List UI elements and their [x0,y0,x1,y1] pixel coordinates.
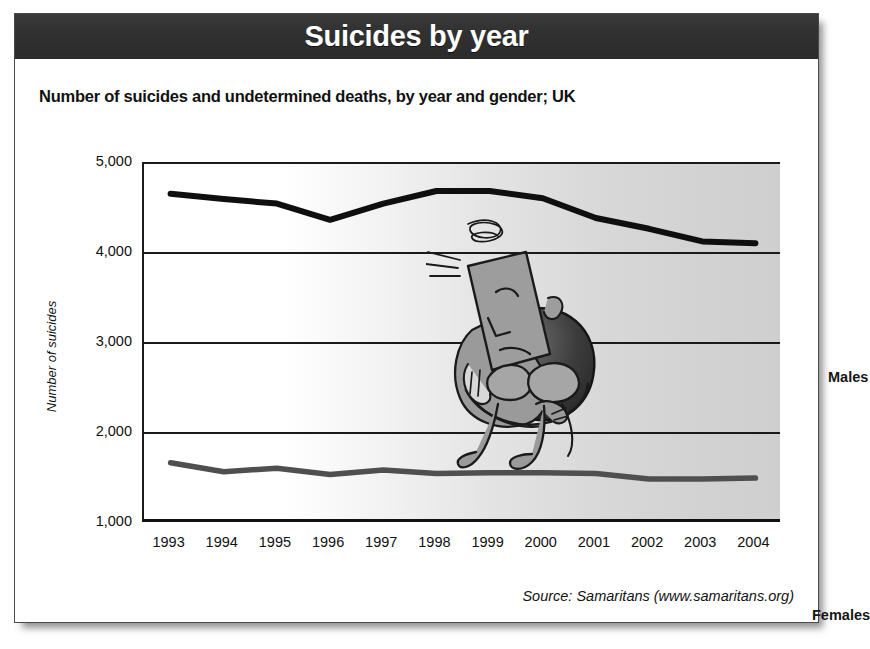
x-tick-label: 2004 [725,534,781,550]
chart-area: Number of suicides 5,000 4,000 3,000 2,0… [15,59,820,624]
x-tick-label: 1994 [194,534,250,550]
x-tick-label: 2000 [513,534,569,550]
source-note: Source: Samaritans (www.samaritans.org) [522,588,794,604]
plot-area: Males Females [142,162,780,522]
x-tick-label: 2001 [566,534,622,550]
x-axis-ticks: 1993199419951996199719981999200020012002… [142,534,780,558]
x-tick-label: 1996 [300,534,356,550]
x-tick-label: 1997 [353,534,409,550]
x-tick-label: 2003 [672,534,728,550]
x-tick-label: 1995 [247,534,303,550]
y-tick-label: 2,000 [70,423,132,439]
y-axis-title: Number of suicides [44,277,59,437]
y-tick-label: 3,000 [70,333,132,349]
x-tick-label: 1999 [460,534,516,550]
page-title: Suicides by year [304,20,528,53]
series-label-males: Males [828,369,868,385]
males-line [171,191,756,243]
x-tick-label: 2002 [619,534,675,550]
series-lines [144,164,782,524]
y-tick-label: 5,000 [70,153,132,169]
x-tick-label: 1993 [141,534,197,550]
x-tick-label: 1998 [406,534,462,550]
y-axis-ticks: 5,000 4,000 3,000 2,000 1,000 [64,162,132,522]
infographic-card: Suicides by year Number of suicides and … [14,13,819,623]
title-banner: Suicides by year [15,14,818,59]
females-line [171,463,756,479]
series-label-females: Females [812,607,870,623]
y-tick-label: 1,000 [70,513,132,529]
y-tick-label: 4,000 [70,243,132,259]
